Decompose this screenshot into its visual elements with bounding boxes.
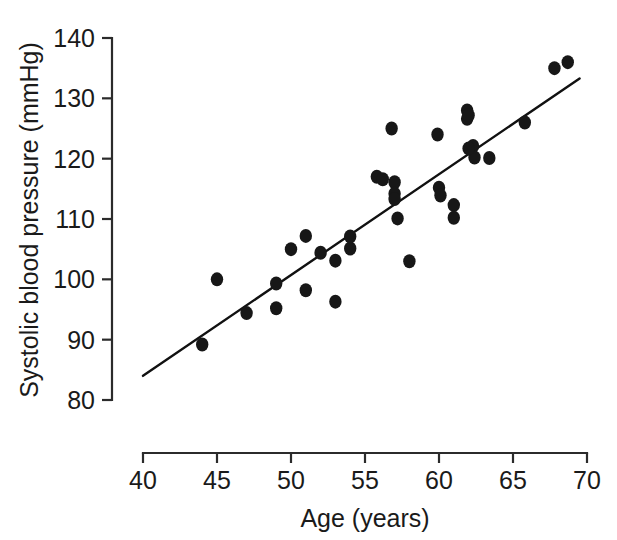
data-point — [519, 115, 531, 129]
scatter-plot-figure: 8090100110120130140 40455055606570 Systo… — [0, 0, 617, 540]
chart-canvas: 8090100110120130140 40455055606570 Systo… — [0, 0, 617, 540]
data-point — [483, 151, 495, 165]
y-tick-label: 90 — [67, 326, 95, 354]
data-point — [434, 188, 446, 202]
data-point — [431, 128, 443, 142]
data-point — [344, 229, 356, 243]
data-point — [448, 198, 460, 212]
data-point — [403, 254, 415, 268]
y-tick-label: 140 — [53, 24, 95, 52]
data-point — [448, 211, 460, 225]
data-point — [344, 242, 356, 256]
data-point — [385, 122, 397, 136]
data-point — [329, 295, 341, 309]
data-point — [462, 108, 474, 122]
x-axis-title: Age (years) — [300, 504, 429, 532]
data-point — [562, 55, 574, 69]
data-point — [240, 306, 252, 320]
data-point — [196, 337, 208, 351]
data-point — [300, 229, 312, 243]
data-point — [388, 192, 400, 206]
x-axis: 40455055606570 — [129, 453, 601, 494]
data-point — [391, 211, 403, 225]
y-axis: 8090100110120130140 — [53, 24, 112, 414]
x-tick-label: 60 — [425, 466, 453, 494]
data-point — [314, 246, 326, 260]
x-tick-label: 40 — [129, 466, 157, 494]
y-tick-label: 130 — [53, 84, 95, 112]
y-tick-label: 100 — [53, 265, 95, 293]
data-point — [270, 301, 282, 315]
y-axis-title: Systolic blood pressure (mmHg) — [15, 42, 43, 398]
y-tick-label: 110 — [55, 205, 95, 233]
data-points — [196, 55, 574, 351]
regression-line — [143, 78, 580, 375]
data-point — [300, 283, 312, 297]
data-point — [329, 254, 341, 268]
x-tick-label: 45 — [203, 466, 231, 494]
data-point — [377, 172, 389, 186]
x-tick-label: 70 — [573, 466, 601, 494]
y-tick-label: 120 — [53, 145, 95, 173]
data-point — [462, 141, 474, 155]
y-tick-label: 80 — [67, 386, 95, 414]
data-point — [285, 242, 297, 256]
data-point — [548, 61, 560, 75]
x-tick-label: 65 — [499, 466, 527, 494]
x-tick-label: 55 — [351, 466, 379, 494]
data-point — [211, 272, 223, 286]
data-point — [270, 277, 282, 291]
x-tick-label: 50 — [277, 466, 305, 494]
